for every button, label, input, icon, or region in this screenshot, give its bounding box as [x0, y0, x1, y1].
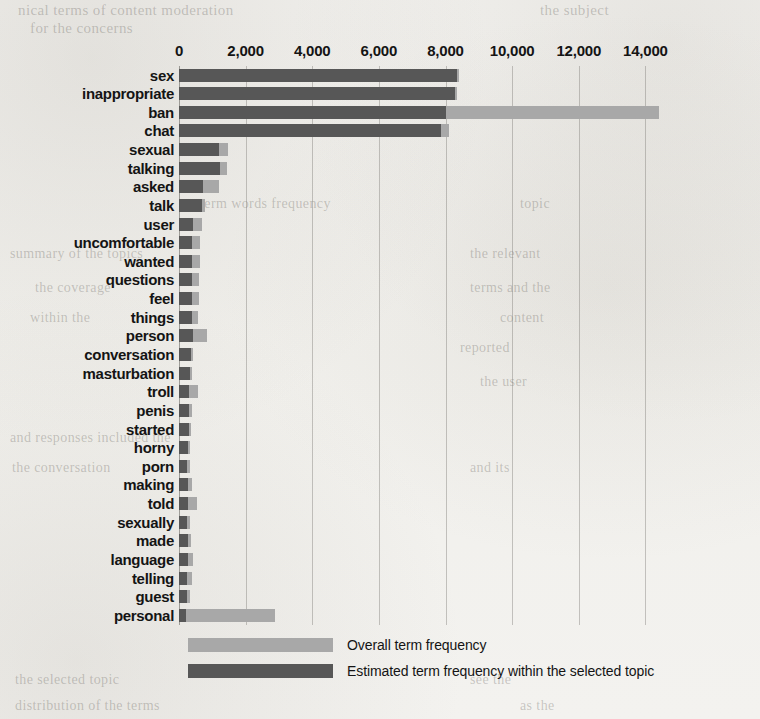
chart-bar-row[interactable]: things — [179, 311, 712, 324]
bar-selected-topic-frequency — [179, 534, 188, 547]
x-axis-tick-label: 8,000 — [427, 42, 464, 59]
chart-bar-row[interactable]: troll — [179, 385, 712, 398]
legend-label-selected-topic: Estimated term frequency within the sele… — [347, 663, 654, 679]
chart-bar-row[interactable]: inappropriate — [179, 87, 712, 100]
chart-bar-row[interactable]: ban — [179, 106, 712, 119]
chart-bar-row[interactable]: sexual — [179, 143, 712, 156]
term-label: making — [123, 475, 174, 494]
term-label: sexually — [117, 513, 174, 532]
chart-bar-row[interactable]: telling — [179, 572, 712, 585]
bar-selected-topic-frequency — [179, 590, 187, 603]
term-label: feel — [149, 289, 174, 308]
chart-bar-row[interactable]: language — [179, 553, 712, 566]
term-label: telling — [132, 569, 174, 588]
bar-selected-topic-frequency — [179, 255, 192, 268]
chart-bar-row[interactable]: told — [179, 497, 712, 510]
term-label: horny — [134, 438, 174, 457]
chart-bar-row[interactable]: talk — [179, 199, 712, 212]
term-label: talking — [128, 159, 174, 178]
bar-selected-topic-frequency — [179, 497, 188, 510]
term-label: porn — [142, 457, 174, 476]
legend-swatch-overall-icon — [188, 638, 333, 652]
bar-overall-frequency — [179, 609, 275, 622]
chart-bar-row[interactable]: personal — [179, 609, 712, 622]
chart-bar-row[interactable]: made — [179, 534, 712, 547]
bar-selected-topic-frequency — [179, 69, 457, 82]
bar-selected-topic-frequency — [179, 478, 188, 491]
bar-selected-topic-frequency — [179, 423, 189, 436]
term-label: ban — [148, 103, 174, 122]
term-label: inappropriate — [82, 84, 174, 103]
x-axis-tick-label: 6,000 — [361, 42, 398, 59]
term-label: uncomfortable — [74, 233, 174, 252]
bar-selected-topic-frequency — [179, 572, 187, 585]
legend-swatch-selected-icon — [188, 664, 333, 678]
bar-selected-topic-frequency — [179, 385, 189, 398]
chart-bar-row[interactable]: sexually — [179, 516, 712, 529]
legend-label-overall: Overall term frequency — [347, 637, 486, 653]
bar-selected-topic-frequency — [179, 180, 203, 193]
chart-bar-row[interactable]: talking — [179, 162, 712, 175]
term-label: sexual — [129, 140, 174, 159]
term-label: conversation — [84, 345, 174, 364]
chart-bar-row[interactable]: guest — [179, 590, 712, 603]
bar-selected-topic-frequency — [179, 124, 441, 137]
chart-bar-row[interactable]: started — [179, 423, 712, 436]
chart-bar-row[interactable]: porn — [179, 460, 712, 473]
bar-selected-topic-frequency — [179, 441, 188, 454]
bar-selected-topic-frequency — [179, 609, 186, 622]
chart-bar-row[interactable]: uncomfortable — [179, 236, 712, 249]
bar-selected-topic-frequency — [179, 162, 220, 175]
chart-legend: Overall term frequency Estimated term fr… — [188, 634, 654, 686]
chart-bar-row[interactable]: making — [179, 478, 712, 491]
bar-selected-topic-frequency — [179, 236, 192, 249]
term-label: started — [126, 420, 174, 439]
term-label: language — [111, 550, 174, 569]
bar-selected-topic-frequency — [179, 292, 192, 305]
term-label: made — [136, 531, 174, 550]
legend-item-overall[interactable]: Overall term frequency — [188, 634, 654, 656]
term-label: masturbation — [83, 364, 174, 383]
chart-bar-row[interactable]: wanted — [179, 255, 712, 268]
chart-bar-row[interactable]: asked — [179, 180, 712, 193]
bar-selected-topic-frequency — [179, 348, 191, 361]
chart-bar-row[interactable]: sex — [179, 69, 712, 82]
term-label: personal — [114, 606, 174, 625]
bar-selected-topic-frequency — [179, 218, 193, 231]
chart-bar-row[interactable]: penis — [179, 404, 712, 417]
term-label: told — [148, 494, 174, 513]
chart-plot-area: 02,0004,0006,0008,00010,00012,00014,000s… — [179, 66, 712, 625]
chart-bar-row[interactable]: conversation — [179, 348, 712, 361]
bar-selected-topic-frequency — [179, 460, 187, 473]
chart-bar-row[interactable]: questions — [179, 273, 712, 286]
term-label: talk — [149, 196, 174, 215]
term-label: user — [144, 215, 175, 234]
chart-bar-row[interactable]: horny — [179, 441, 712, 454]
term-label: sex — [150, 66, 174, 85]
legend-item-selected-topic[interactable]: Estimated term frequency within the sele… — [188, 660, 654, 682]
chart-bar-row[interactable]: chat — [179, 124, 712, 137]
chart-bar-row[interactable]: feel — [179, 292, 712, 305]
x-axis-tick-label: 2,000 — [227, 42, 264, 59]
bar-selected-topic-frequency — [179, 106, 446, 119]
bar-selected-topic-frequency — [179, 311, 192, 324]
bar-selected-topic-frequency — [179, 367, 190, 380]
x-axis-tick-label: 4,000 — [294, 42, 331, 59]
term-frequency-chart: 02,0004,0006,0008,00010,00012,00014,000s… — [0, 0, 760, 719]
bar-selected-topic-frequency — [179, 199, 202, 212]
bar-selected-topic-frequency — [179, 516, 187, 529]
chart-bar-row[interactable]: masturbation — [179, 367, 712, 380]
term-label: things — [131, 308, 174, 327]
term-label: guest — [135, 587, 174, 606]
x-axis-tick-label: 12,000 — [556, 42, 601, 59]
bar-selected-topic-frequency — [179, 87, 455, 100]
term-label: troll — [147, 382, 174, 401]
x-axis-tick-label: 14,000 — [623, 42, 668, 59]
x-axis-tick-label: 10,000 — [490, 42, 535, 59]
chart-bar-row[interactable]: user — [179, 218, 712, 231]
bar-selected-topic-frequency — [179, 404, 189, 417]
chart-bar-row[interactable]: person — [179, 329, 712, 342]
x-axis-tick-label: 0 — [175, 42, 183, 59]
bar-selected-topic-frequency — [179, 553, 188, 566]
term-label: wanted — [124, 252, 174, 271]
